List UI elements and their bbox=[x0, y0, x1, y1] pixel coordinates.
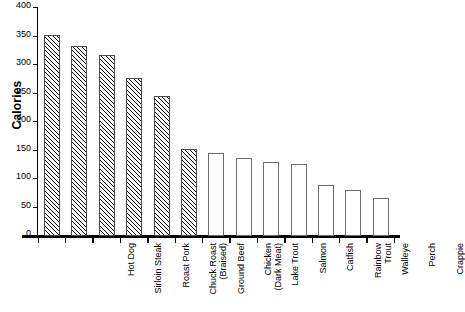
bar bbox=[99, 55, 115, 236]
y-axis-title: Calories bbox=[10, 60, 24, 150]
x-axis-label: Perch bbox=[427, 243, 437, 312]
x-axis-label: Chuck Roast (Braised) bbox=[208, 243, 228, 312]
bar bbox=[44, 35, 60, 236]
bar bbox=[291, 164, 307, 236]
x-tick-mark bbox=[285, 238, 286, 243]
x-tick-mark bbox=[148, 238, 149, 243]
x-tick-mark bbox=[230, 238, 231, 243]
y-tick-label: 100 bbox=[16, 172, 31, 181]
bar bbox=[263, 162, 279, 236]
bar bbox=[373, 198, 389, 236]
x-axis-label: Salmon bbox=[318, 243, 328, 312]
x-axis-label: Ground Beef bbox=[236, 243, 246, 312]
bar bbox=[181, 149, 197, 236]
y-tick-label: 200 bbox=[16, 115, 31, 124]
y-tick-label: 400 bbox=[16, 1, 31, 10]
x-axis-label: Rainbow Trout bbox=[373, 243, 393, 312]
x-tick-mark bbox=[312, 238, 313, 243]
y-tick-label: 0 bbox=[26, 229, 31, 238]
x-axis-label: Lake Trout bbox=[290, 243, 300, 312]
x-tick-mark bbox=[257, 238, 258, 243]
x-axis-label: Chicken (Dark Meat) bbox=[263, 243, 283, 312]
x-tick-mark bbox=[38, 238, 39, 243]
x-tick-mark bbox=[93, 238, 94, 243]
y-tick-label: 50 bbox=[21, 201, 31, 210]
x-tick-mark bbox=[120, 238, 121, 243]
bar bbox=[71, 46, 87, 236]
x-tick-mark bbox=[367, 238, 368, 243]
x-tick-mark bbox=[394, 238, 395, 243]
bar bbox=[208, 153, 224, 236]
bar bbox=[154, 96, 170, 236]
x-axis-label: Catfish bbox=[345, 243, 355, 312]
x-tick-mark bbox=[202, 238, 203, 243]
y-tick-label: 350 bbox=[16, 30, 31, 39]
x-tick-mark bbox=[175, 238, 176, 243]
bar bbox=[318, 185, 334, 236]
x-axis-label: Crappie bbox=[455, 243, 465, 312]
x-axis-label: Sirloin Steak bbox=[153, 243, 163, 312]
x-tick-mark bbox=[339, 238, 340, 243]
x-axis-label: Walleye bbox=[400, 243, 410, 312]
bar bbox=[126, 78, 142, 236]
y-tick-label: 300 bbox=[16, 58, 31, 67]
x-axis-label: Roast Pork bbox=[181, 243, 191, 312]
plot-area bbox=[38, 8, 396, 236]
x-axis-label: Hot Dog bbox=[126, 243, 136, 312]
x-tick-mark bbox=[65, 238, 66, 243]
y-tick-label: 250 bbox=[16, 87, 31, 96]
bar bbox=[345, 190, 361, 236]
y-tick-label: 150 bbox=[16, 144, 31, 153]
bar bbox=[236, 158, 252, 236]
